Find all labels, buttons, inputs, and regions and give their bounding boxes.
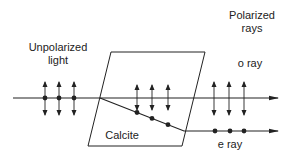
calcite-label: Calcite bbox=[97, 129, 147, 142]
e-ray-path bbox=[100, 98, 278, 131]
polarized-rays-label: Polarized rays bbox=[222, 9, 282, 35]
e-ray-label: e ray bbox=[205, 138, 255, 151]
unpolarized-label-line1: Unpolarized bbox=[22, 41, 94, 54]
o-ray-label: o ray bbox=[225, 57, 275, 70]
polarized-label-line2: rays bbox=[222, 22, 282, 35]
unpolarized-light-label: Unpolarized light bbox=[22, 41, 94, 67]
e-ray-markers-inside bbox=[135, 110, 171, 127]
calcite-birefringence-diagram: Unpolarized light Polarized rays o ray e… bbox=[0, 0, 287, 157]
unpolarized-label-line2: light bbox=[22, 54, 94, 67]
polarized-label-line1: Polarized bbox=[222, 9, 282, 22]
